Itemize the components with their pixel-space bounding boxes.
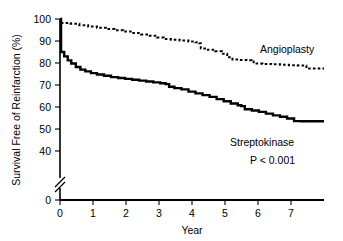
survival-chart-figure: 100 90 80 70 60 50 40 0 0 1 2 3 4 5 6 7 … [0,0,343,241]
kaplan-meier-chart: 100 90 80 70 60 50 40 0 0 1 2 3 4 5 6 7 … [0,0,343,241]
x-tick-label-5: 5 [222,207,228,219]
y-tick-label-40: 40 [39,145,51,157]
y-axis-title: Survival Free of Reinfarction (%) [10,34,22,186]
x-axis-title: Year [181,224,203,236]
series-annotation-angioplasty: Angioplasty [260,43,315,55]
y-tick-label-60: 60 [39,101,51,113]
x-tick-label-6: 6 [255,207,261,219]
pvalue-annotation: P < 0.001 [250,154,295,166]
series-annotation-streptokinase: Streptokinase [230,136,294,148]
x-tick-label-3: 3 [156,207,162,219]
y-tick-label-50: 50 [39,123,51,135]
x-tick-label-0: 0 [57,207,63,219]
y-tick-label-90: 90 [39,35,51,47]
y-tick-label-70: 70 [39,79,51,91]
y-tick-label-100: 100 [33,13,51,25]
x-tick-label-4: 4 [189,207,195,219]
y-tick-label-80: 80 [39,57,51,69]
y-tick-label-0: 0 [45,194,51,206]
x-tick-label-2: 2 [123,207,129,219]
x-tick-label-1: 1 [90,207,96,219]
x-tick-label-7: 7 [288,207,294,219]
